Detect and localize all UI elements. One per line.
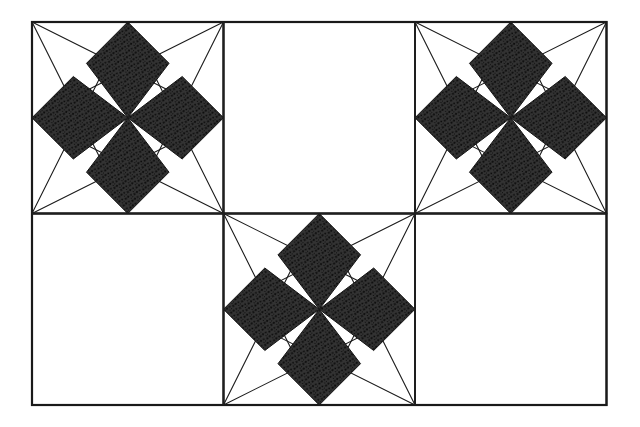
geometric-figure-canvas: Tessellation of squares with four-petal … — [0, 0, 640, 427]
